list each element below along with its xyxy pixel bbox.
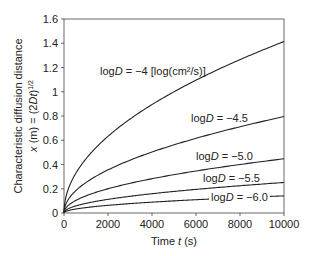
y-tick-label: 0.8 (43, 110, 58, 122)
curve-label: logD = −6.0 (211, 191, 268, 203)
y-tick-label: 0 (52, 207, 58, 219)
y-tick-label: 1.4 (43, 37, 58, 49)
x-tick-label: 4000 (140, 218, 164, 230)
y-tick-label: 1.6 (43, 13, 58, 25)
x-tick-label: 10000 (269, 218, 300, 230)
y-axis-label-line2: x (m) = (2Dt)1/2 (27, 80, 39, 153)
y-tick-label: 0.6 (43, 134, 58, 146)
y-tick-label: 1 (52, 86, 58, 98)
y-axis: 00.20.40.60.811.21.41.6 (43, 13, 64, 219)
curve-label: logD = −4 [log(cm²/s)] (100, 65, 206, 77)
x-axis: 0200040006000800010000 (61, 213, 299, 230)
x-tick-label: 0 (61, 218, 67, 230)
curve-label: logD = −5.0 (196, 150, 253, 162)
diffusion-distance-chart: 00.20.40.60.811.21.41.6 0200040006000800… (0, 0, 311, 256)
x-axis-label: Time t (s) (151, 235, 197, 247)
y-tick-label: 0.2 (43, 183, 58, 195)
x-tick-label: 6000 (184, 218, 208, 230)
y-tick-label: 1.2 (43, 62, 58, 74)
y-tick-label: 0.4 (43, 159, 58, 171)
curve-label: logD = −4.5 (191, 112, 248, 124)
curve-line (64, 159, 284, 213)
curve-label: logD = −5.5 (203, 172, 260, 184)
x-tick-label: 2000 (96, 218, 120, 230)
x-tick-label: 8000 (228, 218, 252, 230)
y-axis-label-line1: Characteristic diffusion distance (12, 38, 24, 193)
